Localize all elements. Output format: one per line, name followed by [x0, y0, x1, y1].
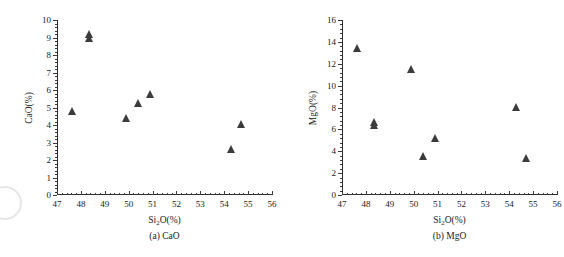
x-minor-tick	[519, 193, 520, 195]
y-minor-tick	[55, 52, 57, 53]
y-tick-label: 14	[327, 37, 336, 46]
y-minor-tick	[55, 118, 57, 119]
x-minor-tick	[239, 193, 240, 195]
x-minor-tick	[433, 193, 434, 195]
panel-caption: (b) MgO	[433, 231, 467, 241]
y-minor-tick	[340, 169, 342, 170]
x-minor-tick	[481, 193, 482, 195]
x-minor-tick	[399, 193, 400, 195]
y-minor-tick	[55, 69, 57, 70]
y-minor-tick	[55, 83, 57, 84]
y-tick	[338, 173, 342, 174]
y-minor-tick	[55, 132, 57, 133]
x-minor-tick	[423, 193, 424, 195]
x-tick	[533, 191, 534, 195]
y-tick	[53, 195, 57, 196]
y-tick	[338, 64, 342, 65]
x-minor-tick	[95, 193, 96, 195]
x-tick-label: 51	[433, 200, 442, 209]
x-tick	[438, 191, 439, 195]
y-minor-tick	[55, 146, 57, 147]
x-minor-tick	[124, 193, 125, 195]
x-tick-label: 56	[553, 200, 562, 209]
x-axis-title: Si2O(%)	[148, 215, 180, 226]
x-minor-tick	[114, 193, 115, 195]
y-minor-tick	[55, 164, 57, 165]
x-tick-label: 55	[529, 200, 538, 209]
y-tick	[53, 73, 57, 74]
y-minor-tick	[55, 97, 57, 98]
x-minor-tick	[352, 193, 353, 195]
x-minor-tick	[524, 193, 525, 195]
y-minor-tick	[340, 147, 342, 148]
y-minor-tick	[340, 116, 342, 117]
x-minor-tick	[371, 193, 372, 195]
x-minor-tick	[100, 193, 101, 195]
x-minor-tick	[67, 193, 68, 195]
y-tick	[338, 129, 342, 130]
y-minor-tick	[55, 80, 57, 81]
x-tick	[557, 191, 558, 195]
x-minor-tick	[466, 193, 467, 195]
y-minor-tick	[340, 121, 342, 122]
x-minor-tick	[186, 193, 187, 195]
y-minor-tick	[55, 157, 57, 158]
y-minor-tick	[55, 45, 57, 46]
y-tick-label: 6	[47, 86, 52, 95]
x-tick	[509, 191, 510, 195]
y-minor-tick	[55, 129, 57, 130]
y-tick-label: 0	[47, 191, 52, 200]
x-tick-label: 54	[505, 200, 514, 209]
y-minor-tick	[340, 186, 342, 187]
x-tick-label: 54	[220, 200, 229, 209]
y-minor-tick	[340, 178, 342, 179]
y-tick-label: 8	[332, 103, 337, 112]
y-minor-tick	[340, 29, 342, 30]
x-tick	[224, 191, 225, 195]
x-tick-label: 56	[268, 200, 277, 209]
x-tick	[248, 191, 249, 195]
x-tick-label: 47	[338, 200, 347, 209]
x-minor-tick	[538, 193, 539, 195]
x-minor-tick	[219, 193, 220, 195]
y-minor-tick	[340, 112, 342, 113]
x-tick	[366, 191, 367, 195]
y-minor-tick	[340, 81, 342, 82]
y-minor-tick	[340, 73, 342, 74]
x-minor-tick	[267, 193, 268, 195]
data-point-marker	[431, 134, 439, 142]
y-minor-tick	[340, 182, 342, 183]
y-minor-tick	[55, 185, 57, 186]
x-minor-tick	[490, 193, 491, 195]
x-minor-tick	[243, 193, 244, 195]
y-minor-tick	[55, 136, 57, 137]
x-tick	[342, 191, 343, 195]
x-minor-tick	[172, 193, 173, 195]
y-minor-tick	[340, 94, 342, 95]
x-minor-tick	[452, 193, 453, 195]
y-minor-tick	[55, 174, 57, 175]
y-minor-tick	[340, 55, 342, 56]
y-minor-tick	[340, 125, 342, 126]
y-tick-label: 8	[47, 51, 52, 60]
y-tick	[338, 86, 342, 87]
y-tick-label: 1	[47, 173, 52, 182]
x-minor-tick	[181, 193, 182, 195]
x-minor-tick	[395, 193, 396, 195]
x-minor-tick	[262, 193, 263, 195]
data-point-marker	[353, 44, 361, 52]
x-tick-label: 49	[385, 200, 394, 209]
y-tick	[338, 108, 342, 109]
x-minor-tick	[385, 193, 386, 195]
x-tick-label: 52	[172, 200, 181, 209]
data-point-marker	[146, 90, 154, 98]
x-minor-tick	[471, 193, 472, 195]
x-minor-tick	[380, 193, 381, 195]
y-minor-tick	[55, 167, 57, 168]
chart-panel-mgo: MgO(%) Si2O(%) (b) MgO 02468101214164748…	[282, 0, 564, 257]
plot-area-cao: CaO(%) Si2O(%) (a) CaO 01234567891047484…	[57, 20, 272, 195]
y-minor-tick	[340, 143, 342, 144]
x-tick	[81, 191, 82, 195]
y-tick	[53, 160, 57, 161]
y-minor-tick	[340, 38, 342, 39]
